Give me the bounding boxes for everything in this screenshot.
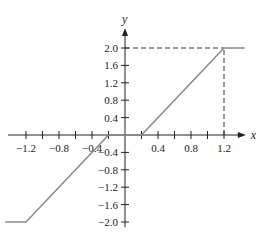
x-axis-arrow-icon [238,132,246,138]
y-tick-label: −1.2 [98,181,118,193]
y-tick-label: −1.6 [98,199,118,211]
x-tick-label: 1.2 [217,142,231,154]
y-tick-label: −0.8 [98,164,118,176]
x-axis-label: x [250,128,257,142]
x-tick-label: 0.4 [151,142,165,154]
piecewise-function-chart: xy−1.2−0.8−0.40.40.81.2−2.0−1.6−1.2−0.8−… [0,0,269,237]
x-tick-label: −1.2 [16,142,36,154]
x-tick-label: 0.8 [184,142,198,154]
y-axis-label: y [121,12,128,26]
y-tick-label: −2.0 [98,216,118,228]
y-tick-label: 1.6 [104,59,118,71]
y-tick-label: 1.2 [104,77,118,89]
x-tick-label: −0.8 [49,142,69,154]
y-axis-arrow-icon [122,28,128,36]
y-tick-label: 0.8 [104,94,118,106]
y-tick-label: 0.4 [104,112,118,124]
y-tick-label: 2.0 [104,42,118,54]
y-tick-label: −0.4 [98,146,118,158]
